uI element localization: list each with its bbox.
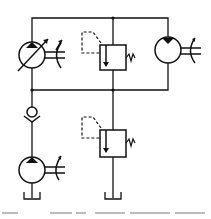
caption-fragment — [130, 212, 170, 214]
junction-dot — [30, 88, 33, 91]
relief-valve-upper-symbol — [82, 32, 135, 70]
variable-pump-symbol — [18, 39, 65, 71]
caption-fragment — [175, 212, 205, 214]
junction-dot — [111, 16, 114, 19]
caption-fragment — [95, 212, 125, 214]
hydraulic-motor-symbol — [155, 37, 201, 63]
relief-valve-lower-symbol — [82, 117, 135, 157]
hydraulic-circuit-diagram — [0, 0, 211, 219]
caption-fragment — [2, 212, 18, 214]
check-valve-symbol — [24, 107, 40, 122]
charge-pump-symbol — [19, 156, 65, 183]
cropped-caption — [0, 210, 211, 216]
junction-dot — [111, 88, 114, 91]
caption-fragment — [50, 212, 72, 214]
caption-fragment — [76, 212, 86, 214]
